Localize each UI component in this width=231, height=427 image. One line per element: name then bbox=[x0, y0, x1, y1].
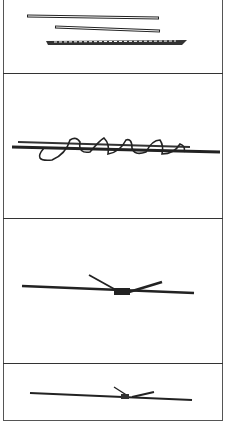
panel-step-2 bbox=[4, 74, 222, 218]
panel-step-1 bbox=[4, 0, 222, 73]
crossed-binding-illustration bbox=[4, 219, 222, 363]
wire-spiral-illustration bbox=[4, 74, 222, 218]
finished-joint-illustration bbox=[4, 364, 222, 421]
panel-step-3 bbox=[4, 219, 222, 363]
panel-step-4 bbox=[4, 364, 222, 421]
parallel-sticks-illustration bbox=[4, 0, 222, 73]
